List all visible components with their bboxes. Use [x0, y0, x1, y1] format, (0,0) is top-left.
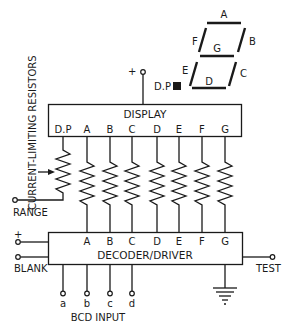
display-pin-b: B: [107, 124, 114, 135]
display-pin-c: C: [129, 124, 136, 135]
segment-f: [199, 28, 206, 52]
test-label: TEST: [255, 263, 282, 274]
dp-variable-resistor: [15, 136, 70, 200]
decoder-pin-e: E: [176, 236, 182, 247]
decoder-pin-b: B: [107, 236, 114, 247]
resistor-b: [103, 136, 117, 232]
segment-e: [190, 62, 197, 86]
display-title: DISPLAY: [123, 108, 167, 120]
plus-supply-top-label: +: [128, 66, 136, 77]
test-terminal: [270, 255, 275, 260]
resistor-f: [195, 136, 209, 232]
display-pin-dp: D.P: [55, 124, 72, 135]
segment-label-b: B: [249, 36, 256, 47]
resistor-d: [150, 136, 164, 232]
decoder-pin-a: A: [84, 236, 91, 247]
blank-terminal: [16, 255, 21, 260]
segment-label-c: C: [240, 68, 247, 79]
segment-resistors: [80, 136, 232, 232]
plus-supply-left-label: +: [14, 229, 22, 240]
bcd-c-terminal: [108, 291, 113, 296]
segment-label-f: F: [192, 36, 198, 47]
decoder-title: DECODER/DRIVER: [97, 249, 192, 261]
segment-label-e: E: [182, 65, 188, 76]
resistor-a: [80, 136, 94, 232]
segment-b: [238, 28, 245, 52]
blank-label: BLANK: [14, 263, 48, 274]
dp-resistor-zigzag: [15, 136, 70, 200]
bcd-d-terminal: [130, 291, 135, 296]
dp-indicator-label: D.P: [154, 81, 171, 92]
resistor-e: [172, 136, 186, 232]
display-pin-f: F: [199, 124, 205, 135]
bcd-label-c: c: [107, 298, 113, 309]
decoder-pin-d: D: [153, 236, 161, 247]
decoder-pin-g: G: [221, 236, 229, 247]
segment-label-g: G: [213, 43, 221, 54]
wiper-arrow-icon: [48, 169, 55, 175]
display-pin-a: A: [84, 124, 91, 135]
segment-label-d: D: [205, 76, 213, 87]
plus-supply-terminal: [141, 70, 146, 75]
plus-supply-left-terminal: [16, 240, 21, 245]
decoder-pin-f: F: [199, 236, 205, 247]
bcd-label-a: a: [60, 298, 66, 309]
ground-icon: [213, 288, 237, 304]
bcd-a-terminal: [61, 291, 66, 296]
decoder-pin-c: C: [129, 236, 136, 247]
resistor-g: [218, 136, 232, 232]
display-pin-g: G: [221, 124, 229, 135]
resistors-caption: CURRENT-LIMITING RESISTORS: [27, 55, 38, 210]
seven-segment-driver-schematic: A B C D E F G D.P + DISPLAY D.P A B C D …: [0, 0, 291, 328]
decimal-point-indicator: [173, 82, 181, 90]
resistor-c: [125, 136, 139, 232]
bcd-b-terminal: [85, 291, 90, 296]
display-pin-d: D: [153, 124, 161, 135]
bcd-label-d: d: [129, 298, 135, 309]
range-terminal: [13, 198, 18, 203]
display-pin-e: E: [176, 124, 182, 135]
segment-c: [229, 62, 236, 86]
bcd-label-b: b: [84, 298, 90, 309]
segment-label-a: A: [221, 9, 228, 20]
bcd-input-label: BCD INPUT: [71, 312, 126, 323]
range-label: RANGE: [13, 207, 48, 218]
